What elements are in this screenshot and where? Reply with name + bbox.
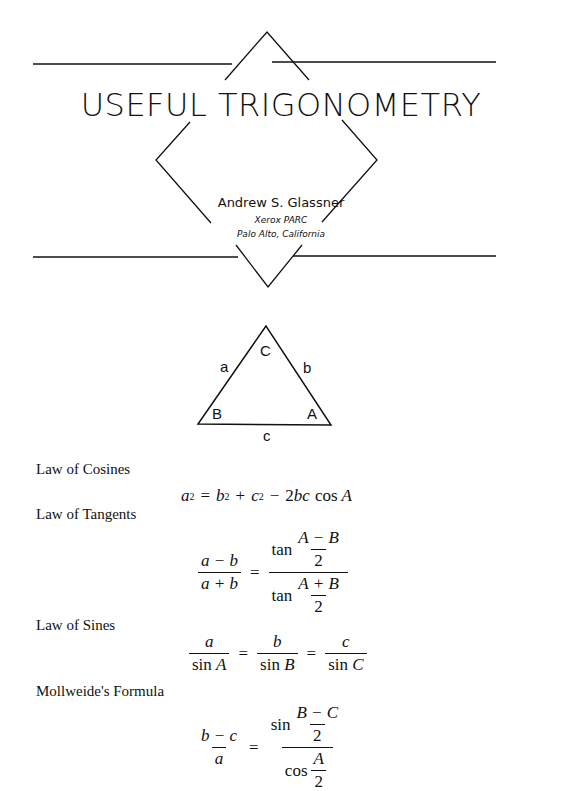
numerator: b − c: [198, 726, 240, 747]
side-label-c: c: [263, 427, 271, 444]
fn-sin: sin: [192, 655, 212, 674]
formula-law-of-tangents: a − b a + b = tan A − B2 tan A + B2: [195, 528, 351, 617]
fn-cos: cos: [285, 761, 308, 781]
section-heading-law-of-tangents: Law of Tangents: [36, 506, 136, 523]
numerator: A + B: [295, 574, 341, 595]
formula-law-of-sines: asin A = bsin B = csin C: [186, 632, 370, 675]
fn-cos: cos: [315, 486, 338, 506]
half-fraction: A + B2: [295, 574, 341, 617]
side-label-a: a: [220, 358, 228, 375]
author-affiliation: Xerox PARC: [0, 215, 562, 225]
denominator: a + b: [198, 572, 241, 594]
author-location: Palo Alto, California: [0, 229, 562, 239]
denominator: cos A2: [282, 747, 333, 791]
numerator: B − C: [293, 703, 341, 724]
vertex-label-c: C: [260, 342, 271, 359]
denominator: tan A + B2: [269, 572, 348, 617]
half-fraction: B − C2: [293, 703, 341, 746]
numerator: sin B − C2: [268, 703, 348, 747]
denominator: 2: [311, 549, 326, 571]
section-heading-mollweides-formula: Mollweide's Formula: [36, 683, 164, 700]
denominator: 2: [310, 724, 325, 746]
coef: 2: [285, 486, 294, 506]
triangle-diagram: C B A a b c: [180, 315, 360, 440]
triangle-shape: [180, 315, 360, 440]
var-c: c: [251, 486, 259, 506]
var-C: C: [352, 655, 363, 674]
op: =: [249, 738, 259, 758]
vertex-label-b: B: [212, 405, 222, 422]
fraction: bsin B: [257, 632, 297, 675]
denominator: a: [212, 747, 227, 769]
numerator: a − b: [198, 551, 241, 572]
vertex-label-a: A: [307, 405, 317, 422]
var-B: B: [284, 655, 294, 674]
formula-law-of-cosines: a2 = b2 + c2 − 2bc cos A: [181, 486, 352, 506]
var-b: b: [216, 486, 225, 506]
op: =: [238, 644, 248, 664]
numerator: b: [270, 632, 285, 653]
side-label-b: b: [303, 359, 311, 376]
op: =: [201, 486, 211, 506]
exp: 2: [259, 491, 264, 502]
numerator: tan A − B2: [269, 528, 348, 572]
title-diamond-decoration: [0, 0, 562, 300]
op: +: [236, 486, 246, 506]
fn-tan: tan: [272, 586, 293, 606]
section-heading-law-of-sines: Law of Sines: [36, 617, 115, 634]
denominator: 2: [311, 595, 326, 617]
fn-sin: sin: [260, 655, 280, 674]
lhs-fraction: a − b a + b: [198, 551, 241, 594]
op: =: [250, 563, 260, 583]
var-A: A: [342, 486, 352, 506]
denominator: sin C: [325, 653, 366, 675]
section-heading-law-of-cosines: Law of Cosines: [36, 461, 130, 478]
page-title: USEFUL TRIGONOMETRY: [0, 86, 562, 124]
author-name: Andrew S. Glassner: [0, 195, 562, 210]
fraction: csin C: [325, 632, 366, 675]
op: =: [307, 644, 317, 664]
half-fraction: A − B2: [295, 528, 341, 571]
exp: 2: [225, 491, 230, 502]
fn-sin: sin: [271, 715, 291, 735]
rhs-fraction: tan A − B2 tan A + B2: [269, 528, 348, 617]
numerator: c: [339, 632, 353, 653]
var-A: A: [216, 655, 226, 674]
lhs-fraction: b − c a: [198, 726, 240, 769]
var-b: b: [294, 486, 303, 506]
op: −: [270, 486, 280, 506]
var-a: a: [181, 486, 190, 506]
fn-sin: sin: [328, 655, 348, 674]
var-c: c: [302, 486, 310, 506]
fraction: asin A: [189, 632, 229, 675]
exp: 2: [190, 491, 195, 502]
fn-tan: tan: [272, 540, 293, 560]
formula-mollweide: b − c a = sin B − C2 cos A2: [195, 703, 350, 791]
numerator: A − B: [295, 528, 341, 549]
denominator: sin B: [257, 653, 297, 675]
denominator: sin A: [189, 653, 229, 675]
rhs-fraction: sin B − C2 cos A2: [268, 703, 348, 791]
numerator: A: [311, 749, 327, 770]
numerator: a: [202, 632, 217, 653]
denominator: 2: [311, 770, 326, 791]
half-fraction: A2: [311, 749, 327, 791]
